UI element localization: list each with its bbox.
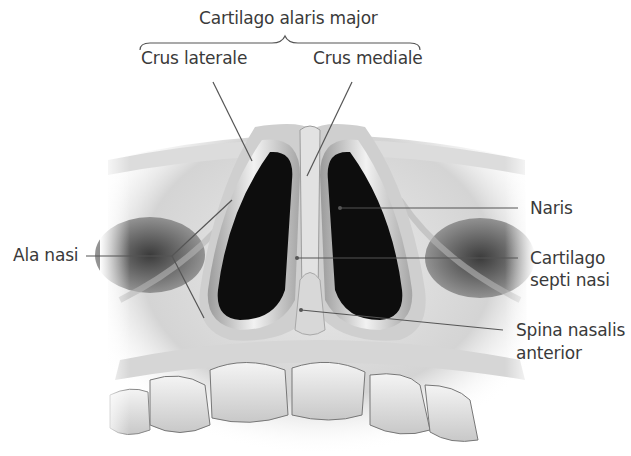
label-cartilago-septi-nasi-1: Cartilago bbox=[530, 248, 605, 269]
anatomy-figure: Cartilago alaris major Crus laterale Cru… bbox=[0, 0, 631, 456]
label-cartilago-septi-nasi-2: septi nasi bbox=[530, 270, 610, 291]
label-spina-nasalis-2: anterior bbox=[516, 343, 582, 364]
label-ala-nasi: Ala nasi bbox=[13, 245, 78, 266]
label-naris: Naris bbox=[530, 198, 573, 219]
label-crus-laterale: Crus laterale bbox=[141, 48, 247, 69]
label-spina-nasalis-1: Spina nasalis bbox=[516, 320, 625, 341]
label-crus-mediale: Crus mediale bbox=[313, 48, 423, 69]
label-cartilago-alaris-major: Cartilago alaris major bbox=[199, 8, 378, 29]
